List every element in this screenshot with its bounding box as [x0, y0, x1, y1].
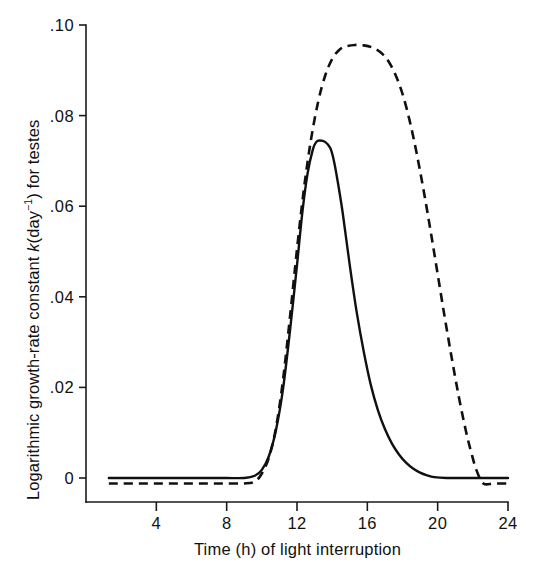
y-axis-tick-label: .02: [50, 378, 74, 396]
y-axis-tick-label: .10: [50, 16, 74, 34]
ticks-group: [79, 25, 508, 511]
x-axis-tick-label: 8: [222, 514, 232, 532]
y-axis-title-unit-close: ) for testes: [24, 120, 42, 199]
x-axis-tick-label: 20: [428, 514, 447, 532]
y-axis-label-wrap: Logarithmic growth-rate constant k(day−1…: [0, 0, 40, 510]
solid-curve: [109, 141, 508, 479]
y-axis-title-unit-exponent: −1: [22, 199, 34, 211]
x-axis-tick-label: 24: [498, 514, 517, 532]
plot-canvas: 0.02.04.06.08.104812162024: [0, 0, 533, 575]
y-axis-title-prefix: Logarithmic growth-rate constant: [24, 252, 42, 500]
x-axis-tick-label: 16: [358, 514, 377, 532]
x-axis-title: Time (h) of light interruption: [85, 540, 510, 559]
y-axis-title-unit-open: (day: [24, 211, 42, 244]
x-axis-tick-label: 12: [287, 514, 306, 532]
tick-labels-group: 0.02.04.06.08.104812162024: [50, 16, 518, 532]
y-axis-tick-label: .04: [50, 288, 74, 306]
y-axis-title-symbol: k: [24, 243, 42, 251]
figure-container: 0.02.04.06.08.104812162024 Logarithmic g…: [0, 0, 533, 575]
y-axis-tick-label: .06: [50, 197, 74, 215]
y-axis-tick-label: .08: [50, 107, 74, 125]
x-axis-tick-label: 4: [152, 514, 162, 532]
dashed-curve: [109, 45, 508, 485]
y-axis-title: Logarithmic growth-rate constant k(day−1…: [22, 120, 43, 500]
data-curves-group: [109, 45, 508, 485]
y-axis-tick-label: 0: [64, 469, 74, 487]
